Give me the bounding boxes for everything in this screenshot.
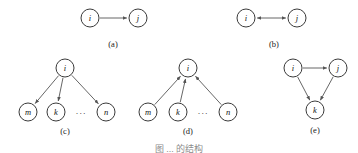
node-k: k xyxy=(169,103,187,121)
node-i: i xyxy=(81,9,99,27)
panel-caption-c: (c) xyxy=(60,126,70,136)
edge-i-to-m xyxy=(35,76,58,104)
node-label-n: n xyxy=(104,107,108,117)
graph-diagram: ij(a)ij(b)imkn···(c)imkn···(d)ijk(e) xyxy=(0,0,358,153)
node-i: i xyxy=(284,59,302,77)
node-m: m xyxy=(19,103,37,121)
figure-container: ij(a)ij(b)imkn···(c)imkn···(d)ijk(e) 图 .… xyxy=(0,0,358,153)
ellipsis-dots: ··· xyxy=(198,108,209,118)
node-label-m: m xyxy=(25,107,31,117)
panel-c: imkn···(c) xyxy=(19,59,115,136)
edge-n-to-i xyxy=(196,76,222,104)
panel-caption-e: (e) xyxy=(310,125,320,135)
ellipsis-dots: ··· xyxy=(76,108,87,118)
node-n: n xyxy=(219,103,237,121)
panel-caption-d: (d) xyxy=(183,126,193,136)
edge-i-to-n xyxy=(72,75,99,103)
node-k: k xyxy=(306,101,324,119)
panel-caption-a: (a) xyxy=(108,39,118,49)
edge-k-to-i xyxy=(180,79,185,102)
panel-d: imkn···(d) xyxy=(139,59,237,136)
node-label-k: k xyxy=(54,107,58,117)
node-n: n xyxy=(97,103,115,121)
panels-layer: ij(a)ij(b)imkn···(c)imkn···(d)ijk(e) xyxy=(19,9,347,136)
node-j: j xyxy=(288,9,306,27)
edge-i-to-k xyxy=(298,77,310,100)
edge-j-to-k xyxy=(320,77,333,100)
panel-caption-b: (b) xyxy=(269,39,279,49)
node-label-m: m xyxy=(145,107,151,117)
panel-e: ijk(e) xyxy=(284,59,347,135)
node-i: i xyxy=(179,59,197,77)
node-label-n: n xyxy=(226,107,230,117)
panel-b: ij(b) xyxy=(237,9,306,49)
node-m: m xyxy=(139,103,157,121)
node-i: i xyxy=(237,9,255,27)
node-label-k: k xyxy=(313,105,317,115)
node-k: k xyxy=(47,103,65,121)
node-label-k: k xyxy=(176,107,180,117)
edge-i-to-k xyxy=(58,78,63,101)
node-j: j xyxy=(329,59,347,77)
edge-m-to-i xyxy=(155,76,181,104)
node-i: i xyxy=(56,59,74,77)
node-j: j xyxy=(129,9,147,27)
panel-a: ij(a) xyxy=(81,9,147,49)
